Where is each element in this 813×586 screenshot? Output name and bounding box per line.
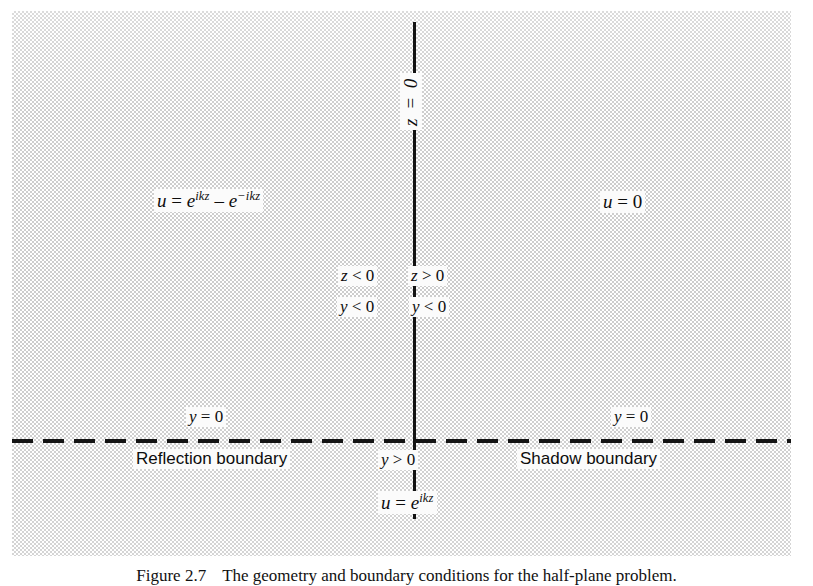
- inequality-y-less-than-zero-left: y < 0: [337, 297, 377, 317]
- figure-caption: Figure 2.7The geometry and boundary cond…: [0, 566, 813, 586]
- less-than-sign: <: [352, 297, 362, 316]
- zero-value: 0: [436, 266, 445, 285]
- y-symbol: y: [381, 450, 389, 469]
- u-symbol: u: [381, 492, 391, 513]
- equals-sign: =: [617, 191, 628, 212]
- exponent-minus-ikz: −ikz: [237, 189, 260, 203]
- figure-caption-number: Figure 2.7: [136, 566, 206, 585]
- greater-than-sign: >: [393, 450, 403, 469]
- exponential-term-2: e−ikz: [229, 190, 261, 211]
- zero-value: 0: [366, 297, 375, 316]
- inequality-z-less-than-zero: z < 0: [338, 266, 377, 286]
- inequality-y-less-than-zero-right: y < 0: [409, 297, 449, 317]
- inequality-y-greater-than-zero: y > 0: [378, 450, 418, 470]
- figure-caption-text: The geometry and boundary conditions for…: [222, 566, 677, 585]
- z-equals-0-text: z = 0: [400, 77, 421, 126]
- horizontal-dashed-axis-line: [12, 439, 791, 443]
- exponential-term-1: eikz: [187, 190, 210, 211]
- field-label-upper-left: u = eikz – e−ikz: [154, 189, 263, 212]
- inequality-z-greater-than-zero: z > 0: [408, 266, 447, 286]
- reflection-boundary-label: Reflection boundary: [133, 449, 290, 469]
- zero-value: 0: [640, 407, 649, 426]
- y-symbol: y: [614, 407, 622, 426]
- exponent-ikz: ikz: [195, 189, 210, 203]
- u-symbol: u: [603, 191, 613, 212]
- equals-sign: =: [201, 407, 211, 426]
- equals-sign: =: [171, 190, 182, 211]
- less-than-sign: <: [352, 266, 362, 285]
- zero-value: 0: [438, 297, 447, 316]
- z-symbol: z: [341, 266, 348, 285]
- y-symbol: y: [189, 407, 197, 426]
- u-symbol: u: [157, 190, 167, 211]
- zero-value: 0: [633, 191, 643, 212]
- y-symbol: y: [340, 297, 348, 316]
- z-symbol: z: [411, 266, 418, 285]
- boundary-condition-y-equals-zero-right: y = 0: [611, 407, 651, 427]
- boundary-condition-y-equals-zero-left: y = 0: [186, 407, 226, 427]
- y-symbol: y: [412, 297, 420, 316]
- vertical-axis-label-z-equals-0: z = 0: [399, 70, 423, 133]
- greater-than-sign: >: [422, 266, 432, 285]
- zero-value: 0: [366, 266, 375, 285]
- equals-sign: =: [395, 492, 406, 513]
- field-label-lower: u = eikz: [378, 491, 437, 514]
- less-than-sign: <: [424, 297, 434, 316]
- exponential-term: eikz: [411, 492, 434, 513]
- exponent-ikz: ikz: [419, 491, 434, 505]
- equals-sign: =: [626, 407, 636, 426]
- field-label-upper-right: u = 0: [600, 191, 645, 213]
- shadow-boundary-label: Shadow boundary: [517, 449, 660, 469]
- minus-sign: –: [214, 190, 224, 211]
- zero-value: 0: [407, 450, 416, 469]
- zero-value: 0: [215, 407, 224, 426]
